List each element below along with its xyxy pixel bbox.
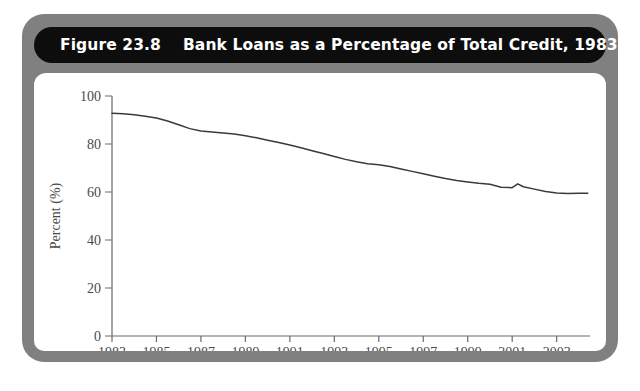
x-axis-tick-label: 1989 (231, 345, 259, 351)
figure-title-bar: Figure 23.8 Bank Loans as a Percentage o… (34, 27, 606, 63)
x-axis-tick-label: 1987 (187, 345, 215, 351)
chart-plot-card: 020406080100 198319851987198919911993199… (34, 73, 606, 351)
y-axis-label: Percent (%) (48, 182, 64, 249)
figure-title: Figure 23.8 Bank Loans as a Percentage o… (34, 36, 640, 54)
x-axis-tick-label: 1985 (142, 345, 170, 351)
y-axis-tick-label: 20 (87, 281, 101, 296)
y-axis-tick-label: 80 (87, 137, 101, 152)
x-axis-tick-label: 1993 (320, 345, 348, 351)
x-axis-ticks: 1983198519871989199119931995199719992001… (98, 336, 571, 351)
x-axis-tick-label: 1997 (409, 345, 437, 351)
y-axis-ticks: 020406080100 (80, 89, 112, 344)
x-axis-tick-label: 1999 (454, 345, 482, 351)
data-series-line (112, 113, 588, 193)
x-axis-tick-label: 2001 (498, 345, 526, 351)
y-axis-tick-label: 60 (87, 185, 101, 200)
y-axis-tick-label: 40 (87, 233, 101, 248)
x-axis-tick-label: 2003 (543, 345, 571, 351)
x-axis-tick-label: 1995 (365, 345, 393, 351)
x-axis-tick-label: 1983 (98, 345, 126, 351)
line-chart: 020406080100 198319851987198919911993199… (34, 73, 606, 351)
y-axis-tick-label: 100 (80, 89, 101, 104)
bottom-caption-strip (0, 381, 640, 391)
x-axis-tick-label: 1991 (276, 345, 304, 351)
y-axis-tick-label: 0 (94, 329, 101, 344)
